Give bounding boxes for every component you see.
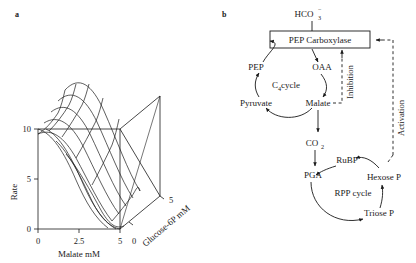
y-axis-ticks: 0 5 10 bbox=[23, 124, 39, 234]
arrow-oaa-to-malate bbox=[321, 74, 327, 97]
activation-dashed-line bbox=[384, 40, 393, 155]
node-pyruvate: Pyruvate bbox=[240, 98, 272, 108]
enzyme-box-label: PEP Carboxylase bbox=[289, 35, 351, 45]
x-tick-5: 5 bbox=[118, 236, 122, 246]
arrow-pyruvate-to-pep bbox=[255, 73, 259, 97]
panel-b-pathway-diagram: b HCO 3 − PEP Carboxylase bbox=[208, 0, 416, 263]
y-tick-0: 0 bbox=[27, 224, 31, 234]
rpp-cycle-label: RPP cycle bbox=[335, 188, 372, 198]
surface-plot-svg: 0 5 10 0 2.5 5 0 5 Rate Mala bbox=[0, 0, 208, 263]
arrow-enzyme-to-oaa bbox=[312, 49, 318, 62]
x-axis-title: Malate mM bbox=[58, 249, 100, 259]
x-axis-ticks: 0 2.5 5 bbox=[36, 229, 122, 246]
node-rubp: RuBP bbox=[336, 155, 358, 165]
activation-path-group: Activation bbox=[376, 40, 406, 162]
co2-label: CO bbox=[306, 138, 319, 148]
co2-node: CO 2 bbox=[306, 138, 324, 150]
bicarbonate-label: HCO bbox=[294, 9, 314, 19]
y-axis-title: Rate bbox=[9, 184, 19, 201]
pathway-diagram-svg: HCO 3 − PEP Carboxylase PEP bbox=[208, 0, 416, 263]
bicarbonate-node: HCO 3 − bbox=[294, 6, 322, 21]
node-oaa: OAA bbox=[312, 62, 332, 72]
x-tick-2point5: 2.5 bbox=[74, 236, 85, 246]
panel-a-label: a bbox=[15, 11, 19, 19]
c4-cycle-group: PEP OAA Malate Pyruvate C 4 cycle bbox=[240, 41, 332, 117]
c4-cycle-label-rest: cycle bbox=[281, 80, 300, 90]
bicarbonate-subscript: 3 bbox=[318, 14, 321, 21]
co2-subscript: 2 bbox=[321, 143, 324, 150]
y-tick-5: 5 bbox=[27, 174, 31, 184]
x-tick-0: 0 bbox=[36, 236, 40, 246]
node-malate: Malate bbox=[306, 98, 331, 108]
inhibition-dashed-line bbox=[333, 58, 342, 103]
rpp-cycle-group: PGA RuBP Hexose P Triose P RPP cycle bbox=[304, 155, 401, 221]
panel-a-surface-plot: a bbox=[0, 0, 208, 263]
z-tick-5: 5 bbox=[169, 195, 173, 205]
z-axis-title: Glucose-6P mM bbox=[140, 203, 192, 249]
arrow-triose-p-to-hexose-p bbox=[380, 185, 383, 208]
z-tick-0: 0 bbox=[132, 236, 136, 246]
figure-root: a bbox=[0, 0, 416, 263]
inhibition-label: Inhibition bbox=[345, 64, 355, 98]
node-hexose-p: Hexose P bbox=[367, 172, 401, 182]
node-pep: PEP bbox=[248, 62, 264, 72]
arrow-hexose-p-to-rubp bbox=[356, 157, 379, 168]
bicarbonate-charge: − bbox=[318, 6, 322, 13]
y-tick-10: 10 bbox=[23, 124, 32, 134]
node-pga: PGA bbox=[304, 170, 323, 180]
arrow-malate-to-pyruvate bbox=[266, 108, 312, 117]
inhibition-path-group: Inhibition bbox=[333, 50, 355, 103]
activation-label: Activation bbox=[396, 99, 406, 136]
activation-dashed-tail bbox=[388, 155, 393, 162]
panel-b-label: b bbox=[222, 11, 226, 19]
node-triose-p: Triose P bbox=[364, 208, 394, 218]
surface-mesh bbox=[38, 83, 140, 221]
